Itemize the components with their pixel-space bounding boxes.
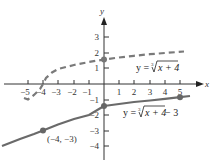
eq-bottom-root-index: 3 (138, 107, 141, 112)
eq-bottom-suffix: − 3 (165, 107, 178, 118)
y-axis (101, 17, 107, 160)
x-tick-label: −3 (51, 87, 61, 97)
x-tick-label: 4 (163, 87, 168, 97)
x-axis-arrow-icon (196, 81, 204, 87)
eq-top-prefix: y = (136, 62, 150, 73)
point-marker-y-intercept-dashed (101, 57, 107, 63)
y-tick-label: 1 (95, 63, 100, 73)
x-axis-label: x (204, 79, 209, 89)
y-tick-label: −3 (89, 126, 99, 136)
x-tick-label: −5 (20, 87, 30, 97)
point-marker-y-intercept-solid (101, 103, 107, 109)
x-tick-label: 1 (117, 87, 122, 97)
equation-label-bottom: y = 3 x + 4 − 3 (123, 106, 178, 118)
y-tick-label: 3 (95, 32, 100, 42)
y-tick-label: 2 (95, 48, 100, 58)
x-tick-label: 3 (148, 87, 153, 97)
cube-root-translation-chart: −5 −4 −3 −2 −1 1 2 3 4 5 3 2 1 −1 −2 −3 … (0, 0, 213, 163)
x-tick-labels: −5 −4 −3 −2 −1 1 2 3 4 5 (20, 87, 183, 97)
point-marker-x5 (177, 94, 183, 100)
point-label-minus4-minus3: (−4, −3) (47, 134, 77, 144)
eq-bottom-prefix: y = (123, 107, 137, 118)
point-marker-minus4-minus3 (40, 128, 46, 134)
eq-bottom-radicand: x + 4 (144, 107, 166, 118)
y-tick-label: −1 (89, 95, 99, 105)
x-tick-label: 2 (132, 87, 137, 97)
eq-top-radicand: x + 4 (157, 62, 179, 73)
eq-top-root-index: 3 (151, 62, 154, 67)
y-axis-arrow-icon (101, 17, 107, 25)
x-tick-label: −2 (67, 87, 77, 97)
y-tick-label: −4 (89, 141, 99, 151)
y-axis-label: y (99, 6, 104, 16)
y-ticks (104, 37, 109, 146)
equation-label-top: y = 3 x + 4 (136, 61, 179, 73)
